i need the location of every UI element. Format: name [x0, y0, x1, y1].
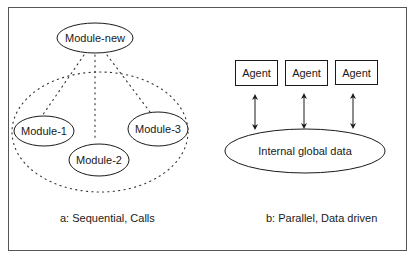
- module-3-label: Module-3: [128, 123, 188, 135]
- call-line-module-1: [42, 55, 84, 116]
- agent-1-label: Agent: [235, 67, 278, 79]
- caption-b: b: Parallel, Data driven: [266, 212, 377, 224]
- diagram-frame: Module-new Module-1 Module-2 Module-3 Ag…: [0, 0, 416, 259]
- caption-a: a: Sequential, Calls: [60, 212, 155, 224]
- module-1-label: Module-1: [14, 125, 74, 137]
- internal-global-data-label: Internal global data: [225, 145, 385, 157]
- agent-2-label: Agent: [285, 67, 328, 79]
- module-2-label: Module-2: [69, 154, 129, 166]
- module-new-label: Module-new: [57, 32, 133, 44]
- call-line-module-3: [107, 55, 150, 112]
- agent-3-label: Agent: [335, 67, 378, 79]
